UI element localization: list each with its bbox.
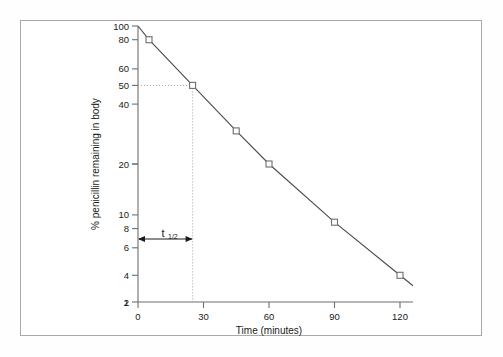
x-axis-title: Time (minutes) xyxy=(236,325,302,336)
y-axis-ticks xyxy=(132,26,138,302)
half-life-label: t xyxy=(161,227,164,239)
y-axis-title: % penicillin remaining in body xyxy=(90,98,101,230)
data-point-marker xyxy=(332,219,338,225)
y-tick-label: 20 xyxy=(118,159,129,170)
y-tick-label: 8 xyxy=(124,223,129,234)
figure-frame: 100 80 60 50 40 20 10 8 6 4 2 1 0 30 60 … xyxy=(20,20,482,336)
y-tick-label: 10 xyxy=(118,209,129,220)
y-tick-label: 50 xyxy=(118,80,129,91)
y-tick-label: 4 xyxy=(124,270,129,281)
x-tick-label: 120 xyxy=(392,311,408,322)
x-tick-label: 60 xyxy=(264,311,275,322)
half-life-label-subscript: 1/2 xyxy=(168,233,178,240)
y-tick-label: 60 xyxy=(118,63,129,74)
data-series-line xyxy=(138,26,413,286)
x-axis-ticks xyxy=(138,302,400,308)
y-tick-label: 80 xyxy=(118,34,129,45)
data-point-marker xyxy=(266,161,272,167)
figure-canvas: 100 80 60 50 40 20 10 8 6 4 2 1 0 30 60 … xyxy=(0,0,503,357)
y-tick-label: 100 xyxy=(113,21,129,32)
y-tick-label: 6 xyxy=(124,242,129,253)
data-series-markers xyxy=(146,37,403,279)
x-tick-label: 30 xyxy=(198,311,209,322)
data-point-marker xyxy=(190,82,196,88)
x-tick-label: 90 xyxy=(329,311,340,322)
data-point-marker xyxy=(233,128,239,134)
y-tick-label: 40 xyxy=(118,99,129,110)
half-life-annotation: t 1/2 xyxy=(138,227,193,242)
y-tick-label: 1 xyxy=(124,297,129,308)
data-point-marker xyxy=(397,272,403,278)
chart-plot-area: 100 80 60 50 40 20 10 8 6 4 2 1 0 30 60 … xyxy=(21,21,483,337)
data-point-marker xyxy=(146,37,152,43)
x-tick-label: 0 xyxy=(135,311,140,322)
